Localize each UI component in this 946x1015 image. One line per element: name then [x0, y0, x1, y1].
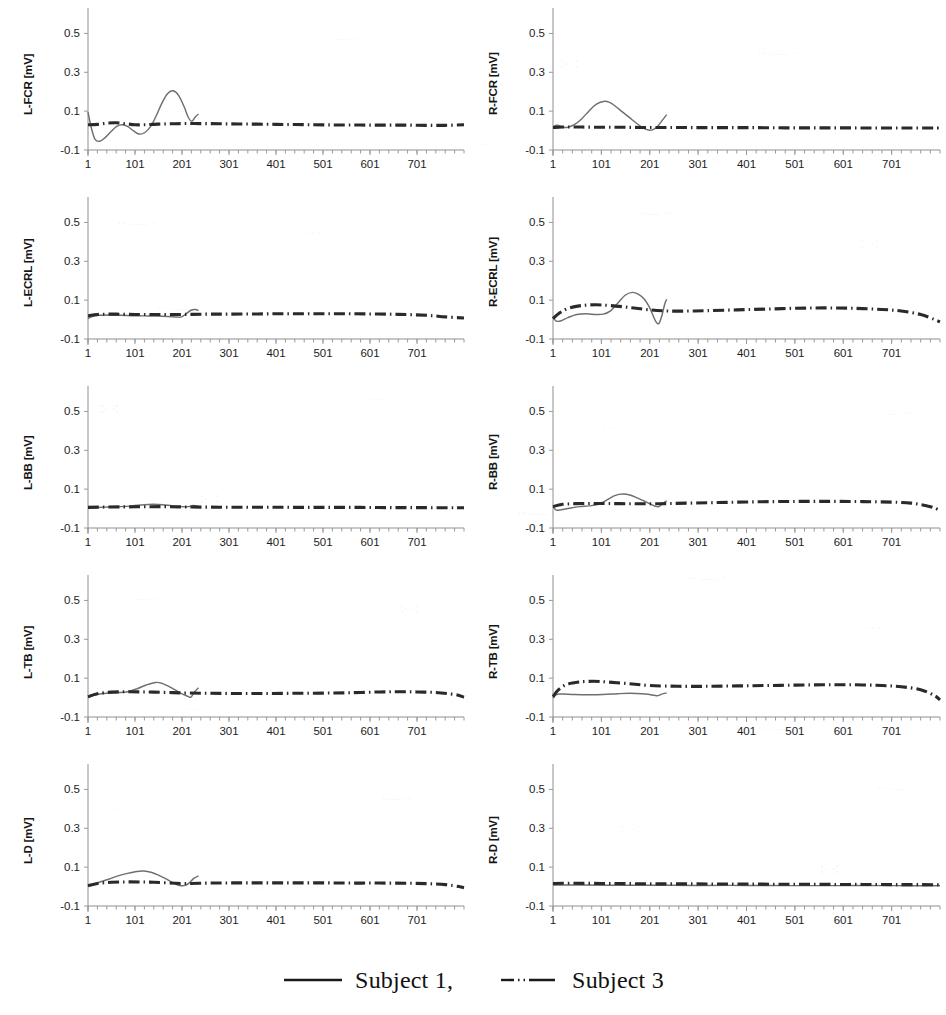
x-tick-label: 601: [834, 725, 853, 737]
y-axis-label-r-fcr: R-FCR [mV]: [487, 52, 499, 115]
solid-line-swatch: [282, 973, 344, 987]
x-tick-label: 301: [689, 536, 708, 548]
series-subject-3-l-ecrl: [88, 314, 464, 318]
y-tick-label: 0.1: [64, 483, 80, 495]
y-axis-label-r-d: R-D [mV]: [487, 817, 499, 865]
y-axis-label-l-bb: L-BB [mV]: [22, 435, 34, 489]
y-axis-label-l-tb: L-TB [mV]: [22, 626, 34, 679]
y-tick-label: 0.1: [529, 294, 545, 306]
x-tick-label: 601: [834, 158, 853, 170]
x-tick-label: 101: [592, 914, 611, 926]
series-subject-3-r-tb: [553, 681, 940, 700]
x-tick-label: 1: [550, 914, 556, 926]
x-tick-label: 501: [785, 536, 804, 548]
panel-r-bb: R-BB [mV]-0.10.10.30.5110120130140150160…: [470, 378, 946, 567]
x-tick-label: 1: [550, 158, 556, 170]
x-tick-label: 201: [640, 536, 659, 548]
x-tick-label: 401: [737, 725, 756, 737]
series-subject-3-r-fcr: [553, 127, 940, 128]
plot-area-r-tb: -0.10.10.30.51101201301401501601701: [470, 567, 946, 756]
x-tick-label: 101: [592, 158, 611, 170]
panel-l-d: L-D [mV]-0.10.10.30.51101201301401501601…: [0, 756, 470, 945]
series-subject-1-l-ecrl: [88, 309, 198, 318]
series-subject-3-l-fcr: [88, 123, 464, 126]
x-tick-label: 201: [640, 914, 659, 926]
x-tick-label: 1: [85, 347, 91, 359]
x-tick-label: 401: [266, 914, 285, 926]
x-tick-label: 1: [550, 725, 556, 737]
y-tick-label: 0.5: [529, 594, 545, 606]
y-axis-label-l-fcr: L-FCR [mV]: [22, 54, 34, 115]
x-tick-label: 301: [219, 347, 238, 359]
y-tick-label: -0.1: [60, 900, 80, 912]
x-tick-label: 701: [882, 347, 901, 359]
x-tick-label: 501: [313, 158, 332, 170]
x-tick-label: 501: [785, 914, 804, 926]
x-tick-label: 201: [172, 536, 191, 548]
panel-r-tb: R-TB [mV]-0.10.10.30.5110120130140150160…: [470, 567, 946, 756]
x-tick-label: 201: [172, 347, 191, 359]
x-tick-label: 201: [640, 725, 659, 737]
y-tick-label: 0.3: [64, 66, 80, 78]
x-tick-label: 401: [737, 347, 756, 359]
y-tick-label: 0.3: [64, 255, 80, 267]
emg-multipanel-figure: L-FCR [mV]-0.10.10.30.511012013014015016…: [0, 0, 946, 1015]
y-tick-label: -0.1: [525, 333, 545, 345]
y-tick-label: -0.1: [525, 144, 545, 156]
y-tick-label: 0.1: [64, 294, 80, 306]
y-tick-label: 0.3: [529, 444, 545, 456]
y-tick-label: 0.1: [64, 105, 80, 117]
plot-area-l-ecrl: -0.10.10.30.51101201301401501601701: [0, 189, 470, 378]
series-subject-1-l-fcr: [88, 91, 198, 142]
x-tick-label: 701: [882, 158, 901, 170]
x-tick-label: 401: [737, 914, 756, 926]
y-axis-label-l-d: L-D [mV]: [22, 818, 34, 864]
plot-area-l-bb: -0.10.10.30.51101201301401501601701: [0, 378, 470, 567]
x-tick-label: 101: [125, 347, 144, 359]
y-tick-label: -0.1: [525, 522, 545, 534]
x-tick-label: 301: [219, 536, 238, 548]
x-tick-label: 701: [882, 725, 901, 737]
series-subject-1-l-tb: [88, 682, 198, 697]
x-tick-label: 101: [125, 536, 144, 548]
x-tick-label: 501: [313, 536, 332, 548]
x-tick-label: 401: [266, 347, 285, 359]
panel-r-d: R-D [mV]-0.10.10.30.51101201301401501601…: [470, 756, 946, 945]
y-tick-label: 0.5: [64, 783, 80, 795]
x-tick-label: 201: [172, 914, 191, 926]
y-tick-label: 0.1: [529, 483, 545, 495]
x-tick-label: 601: [360, 536, 379, 548]
x-tick-label: 401: [266, 158, 285, 170]
series-subject-3-l-bb: [88, 507, 464, 508]
x-tick-label: 101: [592, 347, 611, 359]
series-subject-1-l-bb: [88, 504, 198, 507]
x-tick-label: 601: [834, 914, 853, 926]
y-axis-label-r-bb: R-BB [mV]: [487, 434, 499, 490]
x-tick-label: 501: [785, 347, 804, 359]
y-tick-label: 0.5: [64, 594, 80, 606]
y-tick-label: 0.5: [529, 27, 545, 39]
y-tick-label: -0.1: [525, 900, 545, 912]
x-tick-label: 1: [85, 536, 91, 548]
legend-item-subject-3: Subject 3: [499, 967, 664, 994]
x-tick-label: 701: [882, 914, 901, 926]
x-tick-label: 501: [785, 725, 804, 737]
x-tick-label: 401: [737, 158, 756, 170]
y-tick-label: 0.1: [529, 105, 545, 117]
series-subject-1-r-tb: [553, 693, 667, 698]
x-tick-label: 401: [266, 536, 285, 548]
x-tick-label: 701: [407, 158, 426, 170]
plot-area-l-d: -0.10.10.30.51101201301401501601701: [0, 756, 470, 945]
x-tick-label: 601: [834, 347, 853, 359]
y-tick-label: 0.5: [64, 27, 80, 39]
y-tick-label: 0.3: [529, 633, 545, 645]
panel-l-fcr: L-FCR [mV]-0.10.10.30.511012013014015016…: [0, 0, 470, 189]
x-tick-label: 301: [689, 914, 708, 926]
y-tick-label: 0.3: [529, 66, 545, 78]
x-tick-label: 101: [592, 536, 611, 548]
y-tick-label: 0.5: [529, 783, 545, 795]
series-subject-3-l-d: [88, 882, 464, 888]
x-tick-label: 201: [640, 158, 659, 170]
plot-area-r-bb: -0.10.10.30.51101201301401501601701: [470, 378, 946, 567]
panel-l-bb: L-BB [mV]-0.10.10.30.5110120130140150160…: [0, 378, 470, 567]
